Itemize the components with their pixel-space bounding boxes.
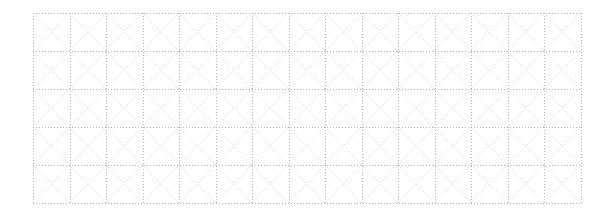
diagonal-line	[325, 165, 362, 203]
diagonal-line	[289, 51, 326, 89]
diagonal-line	[325, 51, 362, 89]
diagonal-line	[544, 127, 581, 165]
diagonal-line	[106, 13, 143, 51]
diagonal-line	[289, 51, 326, 89]
diagonal-line	[362, 127, 399, 165]
diagonal-line	[544, 89, 581, 127]
diagonal-line	[398, 89, 435, 127]
diagonal-line	[252, 51, 289, 89]
diagonal-line	[325, 89, 362, 127]
diagonal-line	[435, 165, 472, 203]
diagonal-line	[471, 13, 508, 51]
diagonal-line	[435, 13, 472, 51]
diagonal-line	[179, 165, 216, 203]
diagonal-line	[143, 165, 180, 203]
diagonal-line	[325, 51, 362, 89]
diagonal-line	[362, 165, 399, 203]
diagonal-line	[435, 51, 472, 89]
diagonal-line	[398, 51, 435, 89]
diagonal-line	[216, 51, 253, 89]
diagonal-line	[508, 89, 545, 127]
diagonal-line	[544, 13, 581, 51]
diagonal-line	[398, 13, 435, 51]
diagonal-line	[252, 127, 289, 165]
diagonal-line	[435, 89, 472, 127]
diagonal-line	[143, 127, 180, 165]
diagonal-line	[179, 89, 216, 127]
diagonal-line	[362, 13, 399, 51]
diagonal-line	[435, 89, 472, 127]
diagonal-line	[143, 89, 180, 127]
diagonal-line	[252, 51, 289, 89]
diagonal-line	[143, 165, 180, 203]
diagonal-line	[289, 89, 326, 127]
diagonal-line	[508, 89, 545, 127]
diagonal-line	[508, 13, 545, 51]
diagonal-line	[362, 127, 399, 165]
diagonal-line	[398, 89, 435, 127]
diagonal-line	[544, 127, 581, 165]
diagonal-line	[362, 89, 399, 127]
diagonal-line	[179, 51, 216, 89]
diagonal-line	[362, 89, 399, 127]
diagonal-line	[325, 13, 362, 51]
diagonal-line	[289, 13, 326, 51]
diagonal-line	[471, 51, 508, 89]
dotted-grid-with-diagonals	[0, 0, 613, 216]
diagonal-line	[362, 13, 399, 51]
diagonal-line	[143, 89, 180, 127]
diagonal-line	[471, 89, 508, 127]
diagonal-line	[216, 89, 253, 127]
diagonal-line	[216, 165, 253, 203]
diagonal-line	[544, 165, 581, 203]
diagonal-line	[508, 51, 545, 89]
diagonal-line	[33, 13, 70, 51]
diagonal-line	[544, 89, 581, 127]
diagonal-line	[398, 165, 435, 203]
diagonal-line	[508, 165, 545, 203]
diagonal-line	[106, 51, 143, 89]
diagonal-line	[179, 127, 216, 165]
diagonal-line	[325, 127, 362, 165]
diagonal-line	[544, 13, 581, 51]
diagonal-line	[179, 165, 216, 203]
diagonal-line	[252, 89, 289, 127]
diagonal-line	[252, 127, 289, 165]
diagonal-line	[143, 13, 180, 51]
diagonal-line	[216, 51, 253, 89]
diagonal-line	[252, 165, 289, 203]
diagonal-line	[471, 165, 508, 203]
diagonal-line	[106, 13, 143, 51]
diagonal-line	[508, 127, 545, 165]
diagonal-line	[143, 13, 180, 51]
diagonal-line	[508, 51, 545, 89]
diagonal-line	[33, 13, 70, 51]
diagonal-line	[508, 165, 545, 203]
diagonal-line	[471, 89, 508, 127]
diagonal-line	[143, 127, 180, 165]
diagonal-line	[398, 165, 435, 203]
diagonal-line	[325, 127, 362, 165]
diagonal-line	[398, 13, 435, 51]
diagonal-line	[325, 13, 362, 51]
diagonal-line	[70, 13, 107, 51]
diagonal-line	[216, 127, 253, 165]
diagonal-line	[471, 51, 508, 89]
diagonal-line	[179, 127, 216, 165]
diagonal-line	[398, 51, 435, 89]
diagonal-line	[143, 51, 180, 89]
diagonal-line	[179, 51, 216, 89]
diagonal-line	[216, 165, 253, 203]
diagonal-line	[289, 89, 326, 127]
diagonal-line	[179, 13, 216, 51]
diagonal-line	[508, 127, 545, 165]
diagonal-line	[471, 13, 508, 51]
diagonal-line	[216, 13, 253, 51]
diagonal-line	[435, 165, 472, 203]
diagonal-line	[289, 127, 326, 165]
diagonal-line	[216, 13, 253, 51]
diagonal-line	[398, 127, 435, 165]
diagonal-line	[252, 13, 289, 51]
diagonal-line	[398, 127, 435, 165]
diagonal-line	[289, 165, 326, 203]
